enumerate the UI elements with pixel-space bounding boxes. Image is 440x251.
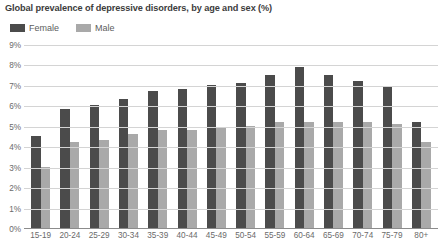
bar-female-70-74[interactable] [353,81,363,228]
bar-group [377,45,406,228]
bar-group [202,45,231,228]
gridline [24,45,438,46]
bar-male-50-54[interactable] [246,126,256,228]
bar-male-40-44[interactable] [187,130,197,228]
x-axis-tick-label: 25-29 [85,231,114,240]
bar-group [26,45,55,228]
bar-group [231,45,260,228]
y-axis-tick-label: 3% [9,163,21,172]
legend-item-female[interactable]: Female [10,23,59,33]
chart-legend: Female Male [10,22,115,34]
bar-group [407,45,436,228]
legend-label-female: Female [29,23,59,33]
bar-male-45-49[interactable] [216,128,226,228]
x-axis-tick-label: 15-19 [26,231,55,240]
bar-group [85,45,114,228]
y-axis-tick-label: 5% [9,122,21,131]
bar-male-35-39[interactable] [158,130,168,228]
bar-female-80+[interactable] [412,122,422,228]
legend-swatch-male [76,24,91,32]
bar-female-75-79[interactable] [383,87,393,228]
bar-female-35-39[interactable] [148,91,158,228]
gridline [24,65,438,66]
legend-label-male: Male [95,23,115,33]
gridline [24,147,438,148]
bar-group [290,45,319,228]
bar-female-40-44[interactable] [178,89,188,228]
y-axis-tick-label: 2% [9,184,21,193]
x-axis-tick-label: 55-59 [260,231,289,240]
depressive-disorders-bar-chart: Global prevalence of depressive disorder… [0,0,440,251]
bar-male-20-24[interactable] [70,142,80,228]
gridline [24,188,438,189]
legend-item-male[interactable]: Male [76,23,115,33]
gridline [24,86,438,87]
bar-male-55-59[interactable] [275,122,285,228]
y-axis-tick-label: 7% [9,81,21,90]
x-axis-tick-label: 40-44 [172,231,201,240]
gridline [24,209,438,210]
x-axis-tick-label: 70-74 [348,231,377,240]
x-axis-baseline [24,228,438,229]
bar-male-70-74[interactable] [363,122,373,228]
bars-layer [24,45,438,228]
bar-group [260,45,289,228]
bar-group [172,45,201,228]
y-axis-tick-label: 1% [9,204,21,213]
bar-group [348,45,377,228]
x-axis-tick-label: 50-54 [231,231,260,240]
bar-female-65-69[interactable] [324,75,334,228]
bar-male-65-69[interactable] [333,122,343,228]
bar-female-50-54[interactable] [236,83,246,228]
bar-female-15-19[interactable] [31,136,41,228]
plot-area: 9%8%7%6%5%4%3%2%1%0% 15-1920-2425-2930-3… [0,45,440,251]
bar-male-25-29[interactable] [99,140,109,228]
x-axis-tick-label: 65-69 [319,231,348,240]
bar-male-80+[interactable] [421,142,431,228]
y-axis-tick-label: 6% [9,102,21,111]
y-axis: 9%8%7%6%5%4%3%2%1%0% [0,45,24,229]
bar-group [319,45,348,228]
gridline [24,168,438,169]
x-axis-tick-label: 30-34 [114,231,143,240]
y-axis-tick-label: 4% [9,143,21,152]
y-axis-tick-label: 0% [9,225,21,234]
grid-area [24,45,438,229]
x-axis: 15-1920-2425-2930-3435-3940-4445-4950-54… [24,231,438,240]
bar-group [114,45,143,228]
bar-male-15-19[interactable] [41,167,51,228]
x-axis-tick-label: 20-24 [55,231,84,240]
legend-swatch-female [10,24,25,32]
y-axis-tick-label: 8% [9,61,21,70]
chart-title: Global prevalence of depressive disorder… [5,3,272,13]
gridline [24,127,438,128]
x-axis-tick-label: 35-39 [143,231,172,240]
bar-group [143,45,172,228]
x-axis-tick-label: 45-49 [202,231,231,240]
x-axis-tick-label: 75-79 [377,231,406,240]
x-axis-tick-label: 80+ [407,231,436,240]
y-axis-tick-label: 9% [9,41,21,50]
bar-male-60-64[interactable] [304,122,314,228]
bar-female-55-59[interactable] [265,75,275,228]
gridline [24,106,438,107]
bar-male-75-79[interactable] [392,124,402,228]
x-axis-tick-label: 60-64 [290,231,319,240]
bar-male-30-34[interactable] [128,134,138,228]
bar-group [55,45,84,228]
